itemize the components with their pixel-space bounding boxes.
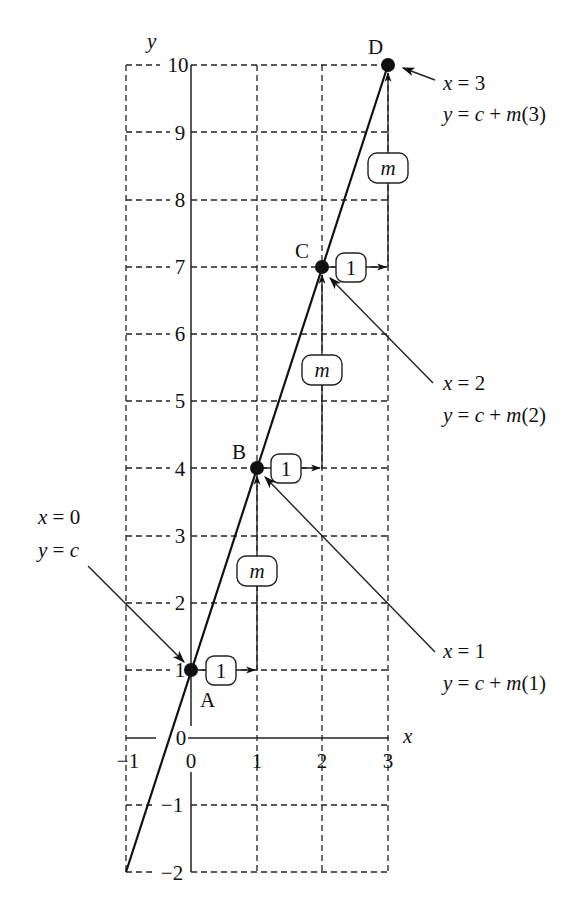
- point-a: [184, 663, 198, 677]
- x-axis-label: x: [402, 724, 413, 748]
- annotation-b: x = 1 y = c + m(1): [441, 639, 546, 695]
- svg-text:m: m: [249, 559, 264, 583]
- leader-c: [330, 278, 433, 383]
- annotation-c-y: y = c + m(2): [441, 403, 546, 427]
- y-tick-4: 4: [175, 457, 186, 481]
- rise-label-b: m: [302, 355, 342, 385]
- y-tick-0: 0: [176, 726, 187, 750]
- y-tick-9: 9: [175, 121, 186, 145]
- leader-a: [88, 566, 184, 662]
- svg-text:m: m: [314, 358, 329, 382]
- y-tick-neg2: −2: [161, 861, 183, 885]
- annotation-c: x = 2 y = c + m(2): [441, 371, 546, 427]
- rise-label-c: m: [368, 153, 408, 183]
- svg-text:1: 1: [216, 659, 227, 683]
- step-labels: 1 m 1 m 1 m: [206, 153, 408, 685]
- x-tick-neg1: −1: [117, 749, 139, 773]
- slope-intercept-figure: 10 9 8 7 6 5 4 3 2 1 0 −1 −2 −1 0 1 2 3 …: [0, 0, 587, 911]
- leader-b: [265, 477, 435, 652]
- rise-label-a: m: [237, 556, 277, 586]
- point-d: [381, 58, 395, 72]
- x-tick-3: 3: [383, 749, 394, 773]
- point-c-label: C: [295, 239, 309, 263]
- x-tick-2: 2: [317, 749, 328, 773]
- svg-text:m: m: [380, 156, 395, 180]
- x-tick-0: 0: [186, 749, 197, 773]
- run-label-a: 1: [206, 656, 236, 685]
- annotation-d: x = 3 y = c + m(3): [441, 71, 546, 126]
- annotation-a: x = 0 y = c: [36, 505, 80, 562]
- annotation-d-x: x = 3: [442, 71, 485, 95]
- y-tick-neg1: −1: [161, 793, 183, 817]
- annotation-a-x: x = 0: [37, 505, 80, 529]
- annotation-d-y: y = c + m(3): [441, 102, 546, 126]
- point-b-label: B: [232, 440, 246, 464]
- run-label-c: 1: [336, 253, 366, 282]
- y-axis-label: y: [145, 29, 157, 53]
- leader-d: [403, 68, 435, 80]
- y-tick-10: 10: [168, 53, 189, 77]
- chart-canvas: 10 9 8 7 6 5 4 3 2 1 0 −1 −2 −1 0 1 2 3 …: [0, 0, 587, 911]
- y-tick-6: 6: [175, 322, 186, 346]
- y-tick-8: 8: [175, 188, 186, 212]
- run-label-b: 1: [271, 454, 301, 483]
- point-b: [250, 461, 264, 475]
- y-tick-7: 7: [175, 255, 186, 279]
- y-tick-labels: 10 9 8 7 6 5 4 3 2 1 0 −1 −2: [161, 53, 189, 885]
- svg-text:1: 1: [281, 457, 292, 481]
- annotation-c-x: x = 2: [442, 371, 485, 395]
- y-tick-3: 3: [175, 524, 186, 548]
- y-tick-5: 5: [175, 389, 186, 413]
- annotation-b-x: x = 1: [442, 639, 485, 663]
- point-a-label: A: [200, 688, 216, 712]
- point-c: [315, 260, 329, 274]
- x-tick-1: 1: [252, 749, 263, 773]
- annotation-a-y: y = c: [36, 538, 80, 562]
- annotation-b-y: y = c + m(1): [441, 671, 546, 695]
- svg-text:1: 1: [346, 256, 357, 280]
- point-d-label: D: [368, 35, 383, 59]
- y-tick-2: 2: [175, 591, 186, 615]
